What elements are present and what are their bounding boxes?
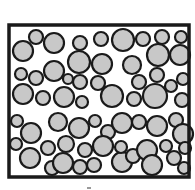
particle-circle	[89, 115, 101, 127]
particle-circle	[92, 54, 112, 74]
particle-circle	[76, 96, 88, 108]
particle-circle	[112, 113, 132, 133]
particle-circle	[101, 85, 123, 107]
particle-circle	[68, 51, 90, 73]
particle-circle	[44, 61, 64, 81]
particle-circle	[13, 84, 33, 104]
particle-circle	[41, 141, 55, 155]
particle-circle	[123, 56, 141, 74]
particle-circle	[127, 92, 141, 106]
particle-circle	[160, 140, 172, 152]
particle-circle	[21, 123, 41, 143]
particle-circle	[112, 29, 134, 51]
particle-circle	[13, 41, 33, 61]
particle-circle	[11, 115, 23, 127]
particle-circle	[69, 118, 89, 138]
particle-circle	[20, 148, 40, 168]
particle-circle	[73, 36, 87, 50]
particle-circle	[142, 155, 162, 175]
particle-circle	[93, 136, 113, 156]
particle-circle	[175, 93, 189, 107]
particle-circle	[63, 74, 73, 84]
particle-circle	[15, 68, 27, 80]
particle-circle	[10, 138, 22, 150]
particle-circle	[143, 84, 167, 108]
particle-packing-diagram	[0, 0, 195, 190]
particle-circle	[167, 151, 181, 165]
particle-circle	[150, 68, 164, 82]
particle-circle	[73, 160, 87, 174]
particle-circle	[175, 31, 187, 43]
particle-circle	[132, 115, 146, 129]
particle-circle	[87, 158, 101, 172]
particle-circle	[58, 136, 74, 152]
particle-circle	[155, 30, 169, 44]
particle-circle	[147, 116, 167, 136]
particles-group	[10, 29, 193, 175]
particle-circle	[170, 45, 190, 65]
particle-circle	[54, 87, 74, 107]
particle-circle	[73, 75, 87, 89]
particle-circle	[94, 32, 108, 46]
particle-circle	[44, 33, 64, 53]
particle-circle	[29, 30, 43, 44]
particle-circle	[78, 143, 92, 157]
particle-circle	[29, 71, 43, 85]
caption-mark	[87, 187, 91, 189]
particle-circle	[53, 153, 73, 173]
particle-circle	[132, 75, 146, 89]
particle-circle	[136, 32, 150, 46]
particle-circle	[165, 80, 177, 92]
particle-circle	[147, 44, 169, 66]
particle-circle	[91, 76, 105, 90]
particle-circle	[177, 73, 189, 85]
particle-circle	[36, 91, 50, 105]
particle-circle	[115, 141, 127, 153]
particle-circle	[49, 113, 67, 131]
